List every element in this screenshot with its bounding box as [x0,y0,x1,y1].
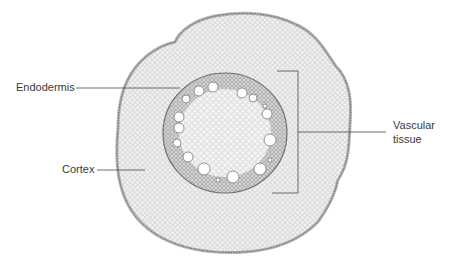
xylem-vessel [254,163,266,175]
xylem-vessel [237,88,247,98]
xylem-vessel [174,112,184,122]
vascular-label-line1: Vascular [393,119,435,132]
xylem-vessel [249,94,257,102]
xylem-vessel [183,152,193,162]
xylem-vessel [268,158,272,162]
xylem-vessel [198,163,210,175]
xylem-vessel [194,86,204,96]
xylem-vessel [182,95,190,103]
xylem-vessel [264,134,276,146]
xylem-vessel [216,178,220,182]
micrograph [0,0,453,280]
xylem-vessel [208,82,218,92]
endodermis-label: Endodermis [16,81,75,94]
xylem-vessel [227,171,239,183]
cortex-label: Cortex [62,163,94,176]
xylem-vessel [262,109,272,119]
xylem-vessel [263,104,267,108]
xylem-vessel [173,139,181,147]
vascular-label-line2: tissue [393,133,422,146]
root-cross-section-figure: Endodermis Cortex Vascular tissue [0,0,453,280]
xylem-vessel [174,123,184,133]
